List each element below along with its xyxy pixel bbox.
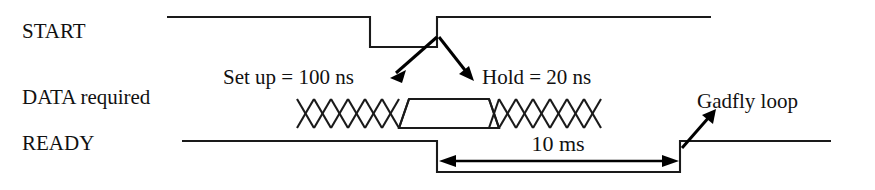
measurement-ten-ms: 10 ms xyxy=(439,131,679,167)
annotation-hold-arrow-shaft xyxy=(439,37,468,74)
annotation-gadfly-label: Gadfly loop xyxy=(697,89,798,113)
annotation-setup-label: Set up = 100 ns xyxy=(223,65,354,89)
measurement-ten-ms-label: 10 ms xyxy=(531,131,584,156)
waveform-ready xyxy=(182,141,831,172)
annotation-hold-label: Hold = 20 ns xyxy=(482,65,591,89)
signal-label-data-required: DATA required xyxy=(22,85,151,109)
data-valid-window xyxy=(399,99,499,128)
waveform-start-trace xyxy=(167,17,711,47)
annotation-hold-arrowhead xyxy=(459,66,474,81)
annotation-setup-time: Set up = 100 ns xyxy=(223,37,437,89)
annotation-setup-arrow-shaft xyxy=(396,37,437,73)
measurement-ten-ms-arrowhead-left xyxy=(439,155,456,167)
data-hatch-left xyxy=(297,99,399,128)
signal-label-start: START xyxy=(22,19,86,43)
measurement-ten-ms-arrowhead-right xyxy=(662,155,679,167)
data-hatch-right xyxy=(499,99,601,128)
signal-label-ready: READY xyxy=(22,131,94,155)
waveform-ready-trace xyxy=(182,141,831,172)
waveform-data-required xyxy=(297,99,601,128)
waveform-start xyxy=(167,17,711,47)
timing-diagram-figure: START DATA required READY xyxy=(0,0,875,190)
annotation-hold-time: Hold = 20 ns xyxy=(439,37,591,89)
timing-diagram-canvas: START DATA required READY xyxy=(0,0,875,190)
annotation-gadfly-loop: Gadfly loop xyxy=(682,89,798,148)
annotation-gadfly-arrow-shaft xyxy=(682,116,710,148)
